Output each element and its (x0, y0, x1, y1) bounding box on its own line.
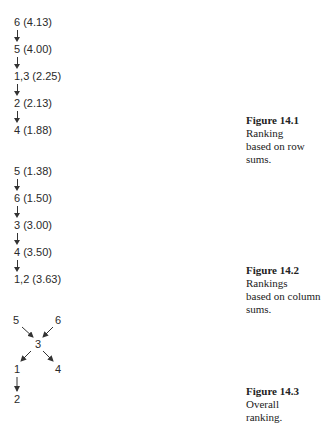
caption-text: based on column sums. (246, 290, 321, 315)
down-arrow-icon (14, 56, 24, 70)
figure-14-2-caption: Figure 14.2 Rankings based on column sum… (246, 264, 324, 316)
down-arrow-icon (14, 259, 24, 273)
rank-node: 5 (4.00) (14, 43, 61, 56)
rank-node: 6 (4.13) (14, 16, 61, 29)
down-arrow-icon (14, 29, 24, 43)
figure-number: Figure 14.1 (246, 114, 299, 126)
rank-node: 1,3 (2.25) (14, 70, 61, 83)
figure-14-3-overall-diagram: 5 6 3 1 4 2 (0, 300, 100, 410)
down-arrow-icon (14, 83, 24, 97)
rank-node: 2 (2.13) (14, 97, 61, 110)
rank-node: 5 (1.38) (14, 165, 61, 178)
figure-number: Figure 14.2 (246, 264, 299, 276)
down-arrow-icon (14, 110, 24, 124)
down-arrow-icon (14, 178, 24, 192)
rank-node: 1,2 (3.63) (14, 273, 61, 286)
figure-number: Figure 14.3 (246, 385, 299, 397)
down-arrow-icon (14, 205, 24, 219)
rank-node: 6 (1.50) (14, 192, 61, 205)
rank-node: 4 (3.50) (14, 246, 61, 259)
caption-text: ranking. (246, 411, 282, 423)
down-arrow-icon (14, 232, 24, 246)
caption-text: Rankings (246, 277, 288, 289)
caption-text: based on row sums. (246, 140, 305, 165)
figure-14-2-ranking-chain: 5 (1.38) 6 (1.50) 3 (3.00) 4 (3.50) 1,2 … (14, 165, 61, 286)
figure-14-1-ranking-chain: 6 (4.13) 5 (4.00) 1,3 (2.25) 2 (2.13) 4 … (14, 16, 61, 137)
caption-text: Ranking (246, 127, 283, 139)
figure-14-1-caption: Figure 14.1 Ranking based on row sums. (246, 114, 324, 166)
figure-14-3-caption: Figure 14.3 Overall ranking. (246, 385, 324, 424)
rank-node: 4 (1.88) (14, 124, 61, 137)
arrows-icon (0, 300, 100, 410)
caption-text: Overall (246, 398, 279, 410)
rank-node: 3 (3.00) (14, 219, 61, 232)
